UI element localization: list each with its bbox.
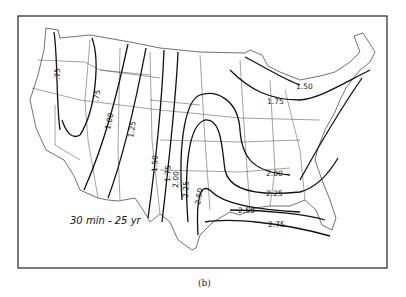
svg-text:2.75: 2.75 (268, 220, 285, 229)
svg-text:2.25: 2.25 (266, 189, 283, 198)
svg-text:.75: .75 (53, 68, 62, 80)
svg-text:2.50: 2.50 (193, 187, 205, 205)
svg-text:2.00: 2.00 (266, 169, 283, 178)
svg-text:1.50: 1.50 (296, 82, 313, 91)
svg-text:2.50: 2.50 (238, 206, 255, 215)
map-title: 30 min - 25 yr (70, 215, 142, 226)
svg-text:.75: .75 (91, 89, 102, 103)
isohyetal-map: .75 .75 1.00 1.25 1.50 1.75 2.00 2.25 2.… (0, 0, 406, 297)
svg-text:1.00: 1.00 (103, 112, 115, 130)
isolines (54, 32, 370, 236)
svg-text:1.25: 1.25 (126, 120, 138, 138)
svg-text:2.00: 2.00 (171, 171, 181, 188)
svg-text:2.25: 2.25 (181, 181, 191, 198)
figure-caption: (b) (198, 278, 211, 288)
svg-text:1.75: 1.75 (267, 97, 284, 106)
svg-text:1.50: 1.50 (150, 155, 160, 172)
